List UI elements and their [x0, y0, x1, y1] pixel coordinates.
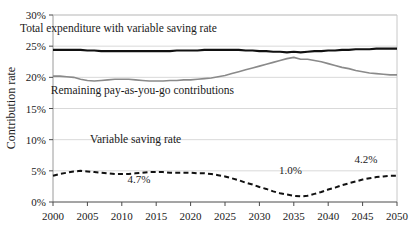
- x-axis-ticks: 2000200520102015202020252030203520402045…: [42, 202, 409, 222]
- chart-container: 0%5%10%15%20%25%30% 20002005201020152020…: [0, 0, 420, 232]
- x-tick-label: 2020: [180, 210, 203, 222]
- y-axis-title-label: Contribution rate: [4, 67, 18, 149]
- y-axis-ticks: 0%5%10%15%20%25%30%: [26, 9, 53, 208]
- y-tick-label: 0%: [31, 196, 46, 208]
- x-tick-label: 2015: [145, 210, 168, 222]
- x-tick-label: 2025: [214, 210, 237, 222]
- y-tick-label: 30%: [26, 9, 46, 21]
- series-label-variable-saving-rate: Variable saving rate: [90, 133, 181, 146]
- series-label-payg-contributions: Remaining pay-as-you-go contributions: [51, 84, 235, 97]
- x-tick-label: 2050: [386, 210, 409, 222]
- chart-canvas: 0%5%10%15%20%25%30% 20002005201020152020…: [0, 0, 420, 232]
- x-tick-label: 2035: [283, 210, 306, 222]
- series-label-total-expenditure: Total expenditure with variable saving r…: [20, 22, 217, 35]
- annotation-4-7-percent: 4.7%: [128, 173, 151, 185]
- x-tick-label: 2045: [352, 210, 375, 222]
- y-tick-label: 5%: [31, 165, 46, 177]
- y-tick-label: 10%: [26, 134, 46, 146]
- annotation-4-2-percent: 4.2%: [355, 153, 378, 165]
- x-tick-label: 2000: [42, 210, 65, 222]
- y-tick-label: 15%: [26, 103, 46, 115]
- x-tick-label: 2030: [248, 210, 271, 222]
- y-tick-label: 20%: [26, 71, 46, 83]
- x-tick-label: 2040: [317, 210, 340, 222]
- x-tick-label: 2010: [111, 210, 134, 222]
- annotation-1-0-percent: 1.0%: [279, 164, 302, 176]
- y-tick-label: 25%: [26, 40, 46, 52]
- x-tick-label: 2005: [76, 210, 99, 222]
- y-axis-title: Contribution rate: [4, 67, 18, 149]
